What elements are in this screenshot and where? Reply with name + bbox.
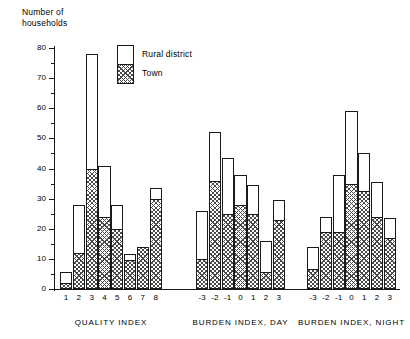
y-tick-20 (49, 229, 55, 230)
y-tick-label-40: 40 (22, 164, 46, 173)
bar-town-segment (260, 272, 272, 289)
y-tick-label-50: 50 (22, 133, 46, 142)
bar-3--1 (333, 175, 345, 289)
bar-town-segment (196, 259, 208, 289)
y-tick-25 (51, 214, 55, 215)
y-tick-label-20: 20 (22, 224, 46, 233)
bar-town-segment (124, 260, 136, 289)
y-tick-label-80: 80 (22, 43, 46, 52)
bar-town-segment (247, 214, 259, 289)
y-tick-50 (49, 138, 55, 139)
bar-1-2 (73, 205, 85, 289)
bar-1-4 (98, 166, 110, 290)
y-tick-10 (49, 259, 55, 260)
bar-1-8 (150, 188, 162, 289)
y-tick-35 (51, 184, 55, 185)
bar-2--2 (209, 132, 221, 289)
bar-town-segment (98, 217, 110, 289)
bar-town-segment (86, 169, 98, 290)
bar-1-3 (86, 54, 98, 289)
bar-town-segment (73, 253, 85, 289)
bar-town-segment (209, 181, 221, 289)
y-tick-label-0: 0 (22, 284, 46, 293)
bar-town-segment (333, 232, 345, 289)
chart-canvas: Number of households 01020304050607080 1… (0, 0, 410, 339)
y-tick-65 (51, 93, 55, 94)
y-tick-60 (49, 108, 55, 109)
y-tick-45 (51, 153, 55, 154)
bar-2-0 (234, 175, 246, 289)
y-tick-5 (51, 274, 55, 275)
bar-town-segment (384, 238, 396, 289)
bar-town-segment (222, 214, 234, 289)
bar-3-3 (384, 218, 396, 289)
bar-3--3 (307, 247, 319, 289)
bar-town-segment (273, 220, 285, 289)
y-axis-title: Number of households (22, 7, 67, 29)
y-tick-55 (51, 123, 55, 124)
bar-1-6 (124, 254, 136, 289)
bar-2--3 (196, 211, 208, 289)
bar-town-segment (320, 232, 332, 289)
bar-2--1 (222, 158, 234, 289)
bar-town-segment (371, 217, 383, 289)
y-tick-label-70: 70 (22, 73, 46, 82)
bar-town-segment (358, 191, 370, 289)
bar-1-5 (111, 205, 123, 289)
bar-town-segment (60, 283, 72, 289)
y-tick-label-10: 10 (22, 254, 46, 263)
bar-3-2 (371, 182, 383, 289)
bar-1-7 (137, 247, 149, 289)
bar-town-segment (111, 229, 123, 289)
y-tick-80 (49, 48, 55, 49)
legend-label-rural-district: Rural district (142, 49, 192, 59)
y-tick-75 (51, 63, 55, 64)
x-tick-label-1-8: 8 (147, 293, 165, 302)
bar-town-segment (234, 205, 246, 289)
legend-label-town: Town (142, 68, 163, 78)
bar-town-segment (137, 247, 149, 289)
bar-town-segment (345, 184, 357, 289)
group-caption-3: BURDEN INDEX, NIGHT (282, 318, 410, 327)
y-tick-70 (49, 78, 55, 79)
x-axis-line (54, 289, 400, 290)
y-tick-label-60: 60 (22, 103, 46, 112)
bar-2-2 (260, 241, 272, 289)
y-tick-15 (51, 244, 55, 245)
bar-2-1 (247, 185, 259, 289)
bar-town-segment (307, 269, 319, 289)
y-tick-label-30: 30 (22, 194, 46, 203)
legend-swatch-town (117, 64, 134, 84)
y-tick-0 (49, 289, 55, 290)
y-tick-40 (49, 169, 55, 170)
y-tick-30 (49, 199, 55, 200)
bar-1-1 (60, 272, 72, 289)
bar-2-3 (273, 200, 285, 289)
bar-3--2 (320, 217, 332, 289)
x-tick-label-2-3: 3 (270, 293, 288, 302)
x-tick-label-3-3: 3 (381, 293, 399, 302)
legend-swatch (117, 45, 134, 84)
bar-3-1 (358, 153, 370, 289)
bar-town-segment (150, 199, 162, 289)
group-caption-1: QUALITY INDEX (41, 318, 181, 327)
bar-3-0 (345, 111, 357, 289)
